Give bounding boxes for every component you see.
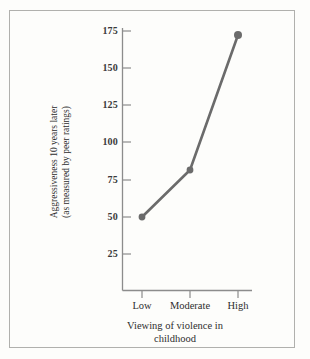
y-tick-label-50: 50: [88, 212, 118, 222]
y-tick-label-25: 25: [88, 249, 118, 259]
x-tick-label-high: High: [210, 300, 266, 312]
x-axis-title: Viewing of violence in childhood: [95, 319, 255, 345]
data-series-line: [142, 35, 238, 217]
y-axis-title-line2: (as measured by peer ratings): [60, 67, 72, 257]
y-axis-title: Aggressiveness 10 years later (as measur…: [48, 67, 72, 257]
y-tick-label-125: 125: [88, 100, 118, 110]
data-point-low: [139, 214, 146, 221]
x-tick-marks: [142, 291, 238, 299]
y-tick-marks: [123, 31, 132, 254]
x-axis-title-line2: childhood: [95, 332, 255, 345]
y-tick-label-150: 150: [88, 63, 118, 73]
y-tick-label-100: 100: [88, 137, 118, 147]
plot-area: 175 150 125 100 75 50 25 Low Moderate Hi…: [0, 0, 310, 359]
figure-screenshot: 175 150 125 100 75 50 25 Low Moderate Hi…: [0, 0, 310, 359]
data-point-moderate: [187, 167, 194, 174]
y-axis-title-line1: Aggressiveness 10 years later: [48, 67, 60, 257]
x-axis-title-line1: Viewing of violence in: [95, 319, 255, 332]
y-tick-label-75: 75: [88, 175, 118, 185]
y-tick-label-175: 175: [88, 26, 118, 36]
data-point-high: [234, 31, 242, 39]
